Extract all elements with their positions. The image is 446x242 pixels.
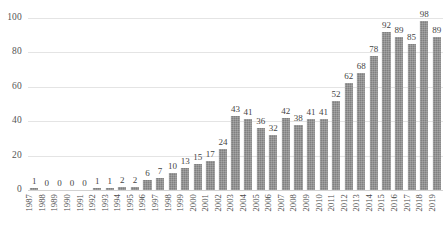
bar[interactable] [118,187,126,190]
bar-slot: 41 [305,18,318,190]
bar-value-label: 2 [120,176,125,185]
bar[interactable] [257,128,265,190]
bar[interactable] [30,188,38,190]
bar-value-label: 7 [158,167,163,176]
x-axis-tick-label: 2014 [365,194,374,212]
bar[interactable] [319,119,327,190]
bar-value-label: 15 [193,153,202,162]
x-axis-tick-label: 2005 [252,194,261,212]
bar-chart: 020406080100 100001122671013151724434136… [0,0,446,242]
bar-value-label: 36 [256,117,265,126]
bar[interactable] [420,21,428,190]
y-axis: 020406080100 [0,18,26,190]
bar-slot: 68 [355,18,368,190]
bar-slot: 78 [368,18,381,190]
bar[interactable] [294,125,302,190]
bar[interactable] [395,37,403,190]
bar-value-label: 1 [107,177,112,186]
bar[interactable] [169,173,177,190]
x-axis-tick-label: 2015 [378,194,387,212]
x-axis-tick-label: 2013 [352,194,361,212]
bar-slot: 17 [204,18,217,190]
x-axis-tick-label: 1988 [38,194,47,212]
bar-value-label: 6 [145,169,150,178]
x-axis-tick-label: 2018 [415,194,424,212]
bar[interactable] [231,116,239,190]
bar-value-label: 41 [244,108,253,117]
x-axis-tick-label: 2004 [239,194,248,212]
bar[interactable] [143,180,151,190]
bar-value-label: 13 [181,157,190,166]
x-axis-tick-label: 1993 [101,194,110,212]
bar-value-label: 92 [382,21,391,30]
bar[interactable] [93,188,101,190]
bar-slot: 1 [91,18,104,190]
bar[interactable] [307,119,315,190]
x-axis-tick-label: 2002 [214,194,223,212]
bar[interactable] [181,168,189,190]
bar-value-label: 85 [407,33,416,42]
bar-slot: 13 [179,18,192,190]
bar-value-label: 78 [369,45,378,54]
bar-slot: 41 [242,18,255,190]
bar[interactable] [219,149,227,190]
bar-value-label: 24 [218,138,227,147]
bar[interactable] [244,119,252,190]
bar[interactable] [407,44,415,190]
bar-slot: 43 [229,18,242,190]
bar-value-label: 62 [344,72,353,81]
bar-slot: 1 [103,18,116,190]
x-axis-tick-label: 1989 [51,194,60,212]
bar-slot: 41 [317,18,330,190]
bar-value-label: 17 [206,150,215,159]
x-axis-tick-label: 2009 [302,194,311,212]
bar[interactable] [357,73,365,190]
bars-layer: 1000011226710131517244341363242384141526… [28,18,443,190]
bar[interactable] [345,83,353,190]
x-axis-tick-label: 1997 [151,194,160,212]
x-axis-tick-label: 2017 [403,194,412,212]
bar-value-label: 89 [394,26,403,35]
x-axis-tick: 2019 [430,192,443,242]
bar-value-label: 42 [281,107,290,116]
bar[interactable] [269,135,277,190]
bar-slot: 98 [418,18,431,190]
bar[interactable] [433,37,441,190]
bar-value-label: 1 [95,177,100,186]
y-axis-tick-label: 100 [7,13,22,23]
bar-slot: 52 [330,18,343,190]
x-axis-tick-label: 2012 [340,194,349,212]
bar-slot: 10 [166,18,179,190]
x-axis-tick-label: 2008 [290,194,299,212]
y-axis-tick-label: 60 [12,82,22,92]
bar-slot: 38 [292,18,305,190]
x-axis-tick-label: 2016 [390,194,399,212]
bar-value-label: 52 [332,90,341,99]
bar[interactable] [194,164,202,190]
x-axis-tick-label: 1991 [76,194,85,212]
bar-slot: 2 [116,18,129,190]
x-axis-tick-label: 2019 [428,194,437,212]
bar[interactable] [131,187,139,190]
x-axis-tick-label: 1996 [139,194,148,212]
bar[interactable] [282,118,290,190]
bar[interactable] [206,161,214,190]
bar[interactable] [370,56,378,190]
bar-slot: 0 [41,18,54,190]
x-axis-tick-label: 1992 [88,194,97,212]
bar-value-label: 89 [432,26,441,35]
bar-value-label: 98 [420,10,429,19]
x-axis-tick-label: 2000 [189,194,198,212]
bar-value-label: 10 [168,162,177,171]
bar[interactable] [332,101,340,190]
x-axis-tick-label: 2003 [227,194,236,212]
bar-slot: 42 [280,18,293,190]
x-axis-tick-label: 1995 [126,194,135,212]
x-axis-tick-label: 1998 [164,194,173,212]
bar[interactable] [156,178,164,190]
bar-slot: 85 [405,18,418,190]
bar[interactable] [382,32,390,190]
bar-value-label: 0 [45,179,50,188]
bar[interactable] [106,188,114,190]
x-axis-tick-label: 1999 [176,194,185,212]
